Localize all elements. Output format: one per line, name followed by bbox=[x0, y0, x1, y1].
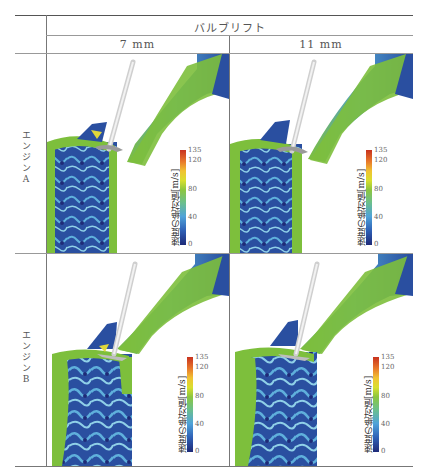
colorbar-gradient bbox=[187, 357, 193, 452]
tick-0: 0 bbox=[188, 240, 192, 248]
tick-120: 120 bbox=[195, 363, 208, 371]
tick-120: 120 bbox=[381, 363, 394, 371]
tick-0: 0 bbox=[381, 447, 385, 455]
colorbar-engine-a-7mm: 速度の絶対値[m/s] 135 120 80 40 0 bbox=[160, 148, 220, 248]
tick-135: 135 bbox=[188, 146, 201, 154]
tick-0: 0 bbox=[195, 447, 199, 455]
tick-80: 80 bbox=[195, 392, 204, 400]
colorbar-gradient bbox=[373, 357, 379, 452]
colorbar-engine-b-7mm: 速度の絶対値[m/s] 135 120 80 40 0 bbox=[167, 355, 227, 455]
tick-0: 0 bbox=[374, 240, 378, 248]
table-top-rule bbox=[15, 15, 413, 16]
tick-80: 80 bbox=[374, 185, 383, 193]
tick-135: 135 bbox=[195, 353, 208, 361]
tick-40: 40 bbox=[374, 213, 383, 221]
colorbar-engine-b-11mm: 速度の絶対値[m/s] 135 120 80 40 0 bbox=[353, 355, 413, 455]
tick-135: 135 bbox=[381, 353, 394, 361]
column-group-header: バルブリフト bbox=[46, 19, 413, 35]
column-header-11mm: 11 mm bbox=[229, 38, 413, 51]
tick-40: 40 bbox=[381, 420, 390, 428]
table-bottom-rule bbox=[15, 466, 413, 467]
tick-120: 120 bbox=[374, 156, 387, 164]
row-label-engine-a: エンジンA bbox=[20, 130, 33, 186]
tick-80: 80 bbox=[188, 185, 197, 193]
tick-80: 80 bbox=[381, 392, 390, 400]
header-divider bbox=[46, 35, 413, 36]
row-label-engine-b: エンジンB bbox=[20, 330, 33, 386]
tick-120: 120 bbox=[188, 156, 201, 164]
column-header-7mm: 7 mm bbox=[46, 38, 229, 51]
colorbar-gradient bbox=[180, 150, 186, 245]
tick-135: 135 bbox=[374, 146, 387, 154]
tick-40: 40 bbox=[195, 420, 204, 428]
colorbar-engine-a-11mm: 速度の絶対値[m/s] 135 120 80 40 0 bbox=[346, 148, 406, 248]
colorbar-gradient bbox=[366, 150, 372, 245]
tick-40: 40 bbox=[188, 213, 197, 221]
